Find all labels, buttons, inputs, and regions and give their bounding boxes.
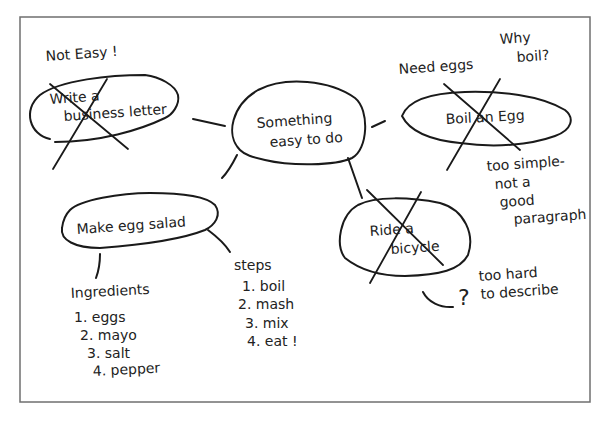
note-why: Why	[499, 29, 531, 47]
step-item: 2. mash	[238, 296, 294, 312]
cluster-diagram: Not Easy ! Write a business letter Somet…	[0, 0, 606, 422]
ingredient-item: 2. mayo	[80, 327, 137, 343]
note-boil: boil?	[516, 47, 550, 65]
step-item: 4. eat !	[247, 333, 298, 349]
ingredient-item: 3. salt	[87, 345, 131, 361]
question-mark-icon: ?	[458, 285, 470, 310]
note-not-a: not a	[494, 174, 531, 192]
steps-title: steps	[234, 257, 272, 273]
ingredient-item: 1. eggs	[74, 309, 126, 325]
step-item: 1. boil	[242, 278, 285, 294]
step-item: 3. mix	[245, 315, 289, 331]
note-good: good	[499, 192, 535, 210]
